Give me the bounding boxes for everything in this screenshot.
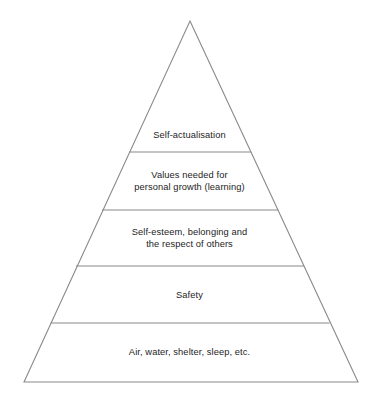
pyramid-outline: [24, 21, 358, 382]
needs-hierarchy-pyramid-figure: Self-actualisation Values needed for per…: [0, 0, 379, 400]
pyramid-diagram: [0, 0, 379, 400]
